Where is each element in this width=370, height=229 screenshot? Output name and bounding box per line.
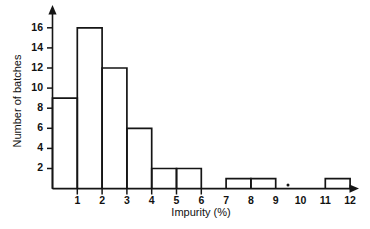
x-tick-label-1: 1: [74, 194, 80, 206]
x-tick-label-12: 12: [344, 194, 356, 206]
y-tick-label-8: 8: [37, 101, 43, 113]
y-tick-label-2: 2: [37, 161, 43, 173]
y-tick-label-4: 4: [37, 141, 43, 153]
y-tick-label-12: 12: [31, 61, 43, 73]
histogram-svg: 2 4 6 8 10 12 14 16 1 2 3 4 5 6 7: [0, 0, 370, 229]
x-tick-label-11: 11: [320, 194, 331, 206]
x-tick-label-6: 6: [198, 194, 204, 206]
y-tick-label-10: 10: [31, 81, 43, 93]
x-tick-label-7: 7: [223, 194, 229, 206]
x-axis-title: Impurity (%): [171, 206, 230, 218]
x-tick-label-5: 5: [174, 194, 180, 206]
x-tick-label-9: 9: [273, 194, 279, 206]
histogram-chart: 2 4 6 8 10 12 14 16 1 2 3 4 5 6 7: [0, 0, 370, 229]
x-tick-label-2: 2: [99, 194, 105, 206]
x-tick-label-8: 8: [248, 194, 254, 206]
y-tick-label-6: 6: [37, 121, 43, 133]
x-tick-label-4: 4: [149, 194, 155, 206]
y-tick-label-16: 16: [31, 21, 43, 33]
y-tick-label-14: 14: [31, 41, 43, 53]
y-axis-title: Number of batches: [11, 54, 23, 147]
chart-background: [0, 0, 370, 229]
x-tick-label-3: 3: [124, 194, 130, 206]
x-tick-dot-10: [287, 184, 290, 187]
x-tick-label-10: 10: [295, 194, 307, 206]
